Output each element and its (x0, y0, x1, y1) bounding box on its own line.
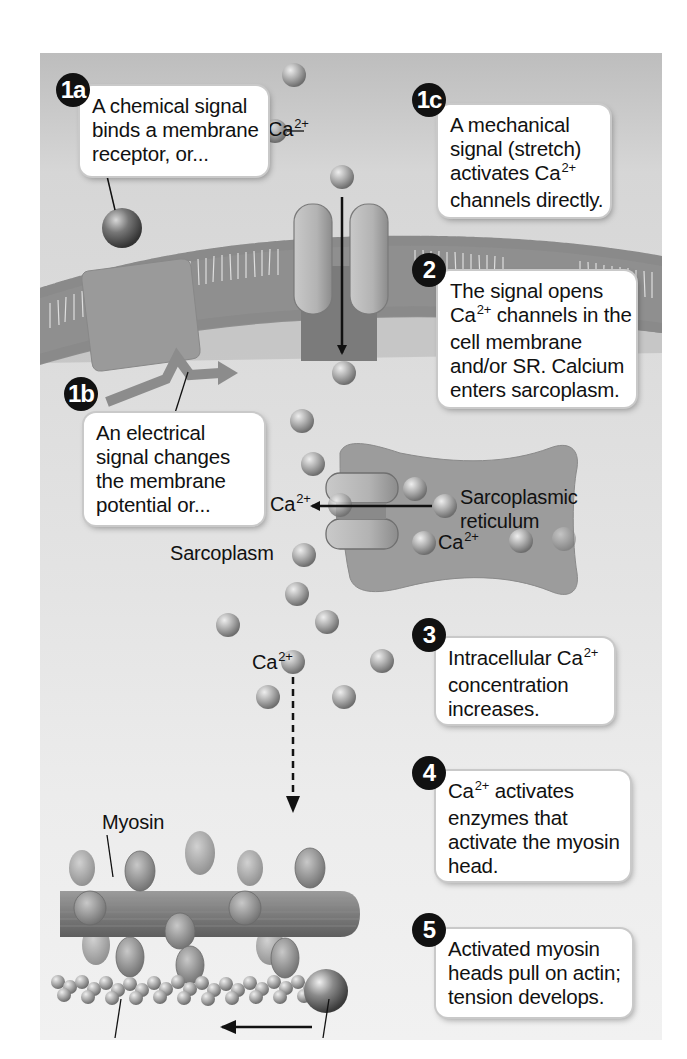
step-badge-3: 3 (412, 618, 446, 652)
label-myosin: Myosin (102, 811, 164, 834)
label-ca-cytosol: Ca2+ (252, 651, 293, 674)
signal-molecule-sphere (102, 208, 142, 248)
step-box-1b: An electrical signal changes the membran… (84, 413, 264, 525)
step-box-1c: A mechanical signal (stretch) activates … (438, 105, 610, 217)
myosin-leader (107, 835, 113, 877)
membrane-receptor (82, 176, 200, 371)
step-badge-1c: 1c (412, 83, 446, 117)
step-box-4: Ca2+ activates enzymes that activate the… (436, 771, 630, 881)
step-box-2: The signal opens Ca2+ channels in the ce… (438, 271, 636, 407)
dense-body-sphere (304, 969, 348, 1013)
label-sr: Sarcoplasmic reticulum (460, 485, 578, 533)
diagram-panel: Ca2+ Ca2+ Sarcoplasmic reticulum Ca2+ Sa… (40, 53, 662, 1040)
step-box-3: Intracellular Ca2+ concentration increas… (436, 638, 614, 724)
step-badge-1a: 1a (56, 73, 90, 107)
label-ca-sr-in: Ca2+ (438, 531, 479, 554)
label-ca-sr-out: Ca2+ (270, 493, 311, 516)
step-box-5: Activated myosin heads pull on actin; te… (436, 929, 632, 1017)
label-ca-top: Ca2+ (268, 118, 309, 141)
label-sarcoplasm: Sarcoplasm (170, 542, 274, 565)
step-badge-1b: 1b (64, 377, 98, 411)
myosin-filament (60, 831, 360, 984)
step-badge-5: 5 (412, 913, 446, 947)
step-box-1a: A chemical signal binds a membrane recep… (80, 86, 268, 176)
step-badge-2: 2 (412, 253, 446, 287)
actin-leader (115, 999, 121, 1038)
step-badge-4: 4 (412, 756, 446, 790)
